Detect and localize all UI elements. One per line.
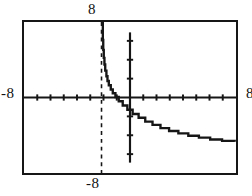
x-min-axis-label: -8: [1, 86, 15, 101]
y-min-axis-label: -8: [86, 176, 100, 191]
function-curve: [103, 22, 235, 142]
calculator-graph-screenshot: 8 -8 8 -8: [0, 0, 252, 196]
y-max-axis-label: 8: [88, 2, 96, 17]
plot-frame: [22, 20, 238, 175]
plot-canvas: [24, 22, 236, 173]
x-max-axis-label: 8: [246, 86, 252, 101]
